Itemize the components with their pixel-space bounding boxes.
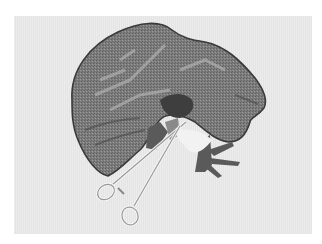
liver-render [0,0,322,244]
